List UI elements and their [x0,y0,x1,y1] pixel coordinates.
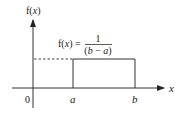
x-axis-label: x [168,82,174,94]
formula-denominator: (b − a) [84,45,111,57]
uniform-distribution-diagram: f(x) x 0 a b f(x) = 1 (b − a) [0,0,185,114]
formula-lhs: f(x) = [58,38,81,50]
b-label: b [132,93,138,105]
a-label: a [70,93,76,105]
density-formula: f(x) = 1 (b − a) [58,33,112,57]
origin-label: 0 [25,94,30,105]
density-rectangle [73,59,135,88]
formula-numerator: 1 [96,33,101,44]
y-axis-label: f(x) [26,5,40,17]
